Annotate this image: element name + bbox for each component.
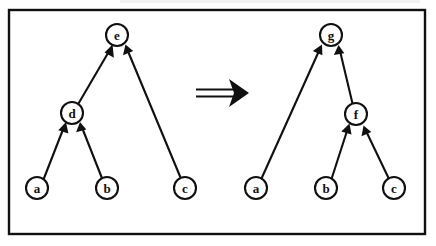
edge-f-to-g — [334, 45, 353, 104]
node-a-left-label: a — [34, 181, 41, 196]
node-e-label: e — [114, 28, 120, 43]
arrowhead-b-to-f — [341, 124, 351, 135]
node-a-right[interactable]: a — [245, 177, 267, 199]
edge-c-to-e — [123, 45, 181, 178]
node-b-right[interactable]: b — [315, 177, 337, 199]
edge-b-to-f — [332, 124, 352, 180]
arrowhead-c-to-f — [362, 126, 372, 137]
node-c-left[interactable]: c — [174, 177, 196, 199]
node-g[interactable]: g — [320, 24, 342, 46]
node-a-left[interactable]: a — [26, 177, 48, 199]
node-g-label: g — [328, 28, 335, 43]
rewrite-arrow — [196, 79, 249, 107]
edge-d-to-e — [79, 45, 114, 104]
edge-a-to-d — [44, 122, 69, 180]
graph-rewrite-diagram: e d a b c — [0, 0, 436, 246]
arrowhead-f-to-g — [334, 45, 345, 55]
edge-a-to-g — [262, 45, 323, 179]
node-f-label: f — [354, 107, 359, 122]
node-d-label: d — [68, 106, 76, 121]
rewrite-arrowhead — [229, 79, 249, 107]
node-c-right-label: c — [391, 181, 397, 196]
left-graph-panel: e d a b c — [26, 24, 196, 199]
node-b-right-label: b — [322, 181, 329, 196]
node-b-left[interactable]: b — [96, 177, 118, 199]
node-e[interactable]: e — [106, 24, 128, 46]
node-d[interactable]: d — [61, 102, 83, 124]
node-c-left-label: c — [182, 181, 188, 196]
edge-c-to-f — [362, 126, 390, 180]
node-b-left-label: b — [103, 181, 110, 196]
scan-noise-band — [120, 0, 420, 3]
right-graph-panel: g f a b c — [245, 24, 405, 199]
node-a-right-label: a — [253, 181, 260, 196]
node-c-right[interactable]: c — [383, 177, 405, 199]
node-f[interactable]: f — [345, 103, 367, 125]
figure-root: e d a b c — [0, 0, 436, 246]
edge-b-to-d — [76, 122, 102, 180]
